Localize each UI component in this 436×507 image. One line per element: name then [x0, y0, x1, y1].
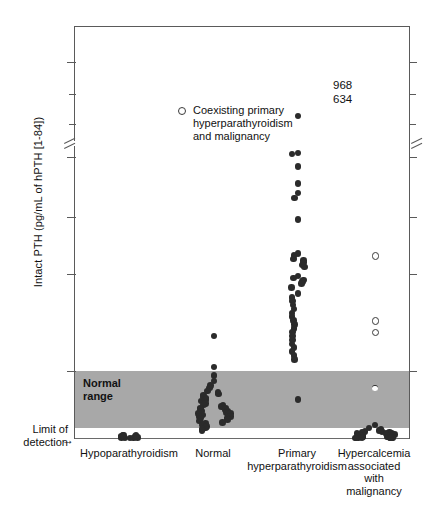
chart-figure: Intact PTH (pg/mL of hPTH [1-84]) Normal… — [0, 0, 436, 507]
limit-of-detection-arrow: → — [62, 433, 74, 447]
y-tick-right-50 — [409, 371, 418, 372]
x-axis-label-3: Hypercalcemia associated with malignancy — [312, 447, 436, 497]
y-tick-right — [409, 124, 416, 125]
data-point — [295, 113, 302, 120]
y-tick-left-50 — [67, 371, 76, 372]
y-tick-right-150 — [409, 217, 418, 218]
y-axis-title: Intact PTH (pg/mL of hPTH [1-84]) — [32, 92, 44, 312]
data-point-highlight — [372, 386, 377, 391]
data-point — [295, 290, 302, 297]
data-point — [215, 391, 222, 398]
data-point — [290, 275, 297, 282]
y-tick-right — [409, 94, 416, 95]
limit-of-detection-caption: Limit of detection — [2, 423, 68, 448]
data-point — [298, 280, 305, 287]
data-point — [295, 150, 302, 157]
chart-legend: Coexisting primary hyperparathyroidism a… — [178, 104, 293, 144]
y-tick-left-200 — [67, 157, 76, 158]
normal-range-label: Normal range — [83, 377, 121, 402]
data-point — [120, 432, 127, 439]
offscale-values-annotation: 968 634 — [333, 79, 352, 106]
data-point — [199, 427, 206, 434]
open-circle-icon — [178, 107, 186, 115]
legend-label: Coexisting primary hyperparathyroidism a… — [193, 104, 293, 144]
data-point — [372, 329, 379, 336]
normal-range-band: Normal range — [75, 371, 409, 428]
y-tick-right-100 — [409, 274, 418, 275]
data-point — [290, 256, 297, 263]
y-tick-left-500 — [67, 62, 76, 63]
axis-break-right — [411, 139, 422, 148]
y-tick-left-150 — [67, 217, 76, 218]
axis-break-left — [64, 139, 75, 148]
data-point — [372, 317, 379, 324]
y-tick-left-100 — [67, 274, 76, 275]
data-point — [289, 151, 296, 158]
data-point — [211, 333, 218, 340]
data-point — [211, 364, 218, 371]
data-point — [291, 356, 298, 363]
data-point — [295, 396, 302, 403]
data-point — [295, 163, 302, 170]
data-point — [295, 180, 302, 187]
data-point — [359, 435, 366, 442]
data-point — [295, 216, 302, 223]
y-tick-left — [69, 94, 76, 95]
y-tick-right-500 — [409, 62, 418, 63]
data-point — [301, 264, 308, 271]
data-point — [219, 419, 226, 426]
y-tick-right-200 — [409, 157, 418, 158]
y-tick-left — [69, 124, 76, 125]
plot-area: Normal range Coexisting primary hyperpar… — [74, 26, 410, 439]
data-point — [372, 252, 379, 259]
data-point — [291, 195, 298, 202]
data-point — [288, 284, 295, 291]
